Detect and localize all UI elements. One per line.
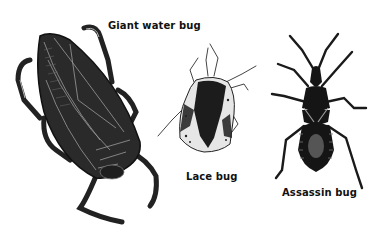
- bug-illustration: Giant water bug Lace bug Assassin bug: [0, 0, 376, 236]
- assassin-bug-illustration: [256, 30, 376, 190]
- lace-bug-label: Lace bug: [186, 171, 238, 182]
- giant-water-bug-label: Giant water bug: [108, 20, 201, 31]
- assassin-bug-label: Assassin bug: [282, 187, 357, 198]
- lace-bug-illustration: [150, 40, 270, 170]
